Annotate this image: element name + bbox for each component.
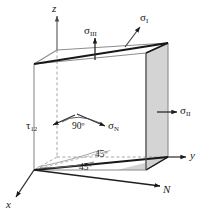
angle-45-lower-label: 45º xyxy=(79,163,91,173)
x-axis-line xyxy=(16,170,34,197)
sigma-3-label: σIII xyxy=(84,25,97,38)
sigma-1-leader xyxy=(125,27,140,47)
angle-90-label: 90º xyxy=(72,122,84,132)
sigma-n-label: σN xyxy=(108,120,119,133)
sigma-1-subscript: I xyxy=(146,17,148,24)
sigma-n-subscript: N xyxy=(114,125,119,132)
x-axis-label: x xyxy=(6,199,11,210)
sigma-3-subscript: III xyxy=(90,30,97,37)
sigma-2-label: σII xyxy=(180,105,190,118)
diagram-canvas xyxy=(0,0,207,218)
tau-12-label: τ12 xyxy=(26,120,37,133)
stress-cube-figure: z y x σI σIII σII τ12 σN 90º 45º 45º N xyxy=(0,0,207,218)
normal-direction-label: N xyxy=(163,184,170,195)
angle-45-upper-label: 45º xyxy=(95,150,107,160)
sigma-1-label: σI xyxy=(140,12,148,25)
tau-12-subscript: 12 xyxy=(30,125,37,132)
sigma-2-subscript: II xyxy=(186,110,191,117)
normal-direction-line xyxy=(34,170,160,186)
z-axis-label: z xyxy=(52,3,56,14)
cube-right-face xyxy=(146,43,168,170)
y-axis-label: y xyxy=(190,150,195,161)
